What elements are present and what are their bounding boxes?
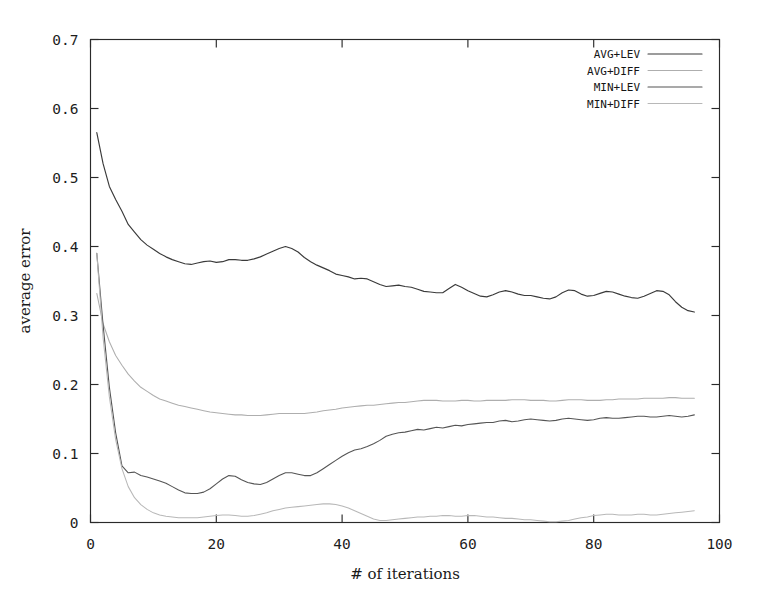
data-series-group bbox=[97, 133, 695, 522]
x-tick-label: 40 bbox=[333, 536, 350, 552]
y-tick-label: 0.3 bbox=[52, 308, 78, 324]
legend-label: MIN+DIFF bbox=[587, 98, 640, 111]
series-line-min-diff bbox=[97, 253, 695, 521]
y-tick-label: 0.4 bbox=[52, 239, 78, 255]
x-tick-label: 20 bbox=[208, 536, 225, 552]
y-tick-label: 0.1 bbox=[52, 446, 78, 462]
legend-label: AVG+LEV bbox=[594, 48, 641, 61]
x-axis-label: # of iterations bbox=[350, 565, 460, 583]
y-tick-label: 0.5 bbox=[52, 170, 78, 186]
series-line-avg-diff bbox=[97, 293, 695, 415]
series-line-min-lev bbox=[97, 253, 695, 493]
y-tick-label: 0.6 bbox=[52, 101, 78, 117]
x-tick-label: 100 bbox=[706, 536, 732, 552]
x-tick-label: 80 bbox=[585, 536, 602, 552]
y-tick-label: 0 bbox=[70, 515, 79, 531]
legend: AVG+LEVAVG+DIFFMIN+LEVMIN+DIFF bbox=[587, 48, 702, 111]
x-tick-label: 0 bbox=[86, 536, 95, 552]
y-tick-label: 0.2 bbox=[52, 377, 78, 393]
chart-container: 00.10.20.30.40.50.60.7 020406080100 aver… bbox=[0, 0, 763, 601]
y-tick-label: 0.7 bbox=[52, 32, 78, 48]
y-axis-label: average error bbox=[16, 228, 34, 334]
x-axis-tick-labels: 020406080100 bbox=[86, 536, 732, 552]
legend-label: MIN+LEV bbox=[594, 81, 641, 94]
legend-label: AVG+DIFF bbox=[587, 65, 640, 78]
line-chart: 00.10.20.30.40.50.60.7 020406080100 aver… bbox=[0, 0, 763, 601]
plot-frame bbox=[91, 40, 720, 523]
y-axis-tick-labels: 00.10.20.30.40.50.60.7 bbox=[52, 32, 78, 531]
series-line-avg-lev bbox=[97, 133, 695, 312]
axis-tick-marks bbox=[91, 40, 720, 523]
x-tick-label: 60 bbox=[459, 536, 476, 552]
